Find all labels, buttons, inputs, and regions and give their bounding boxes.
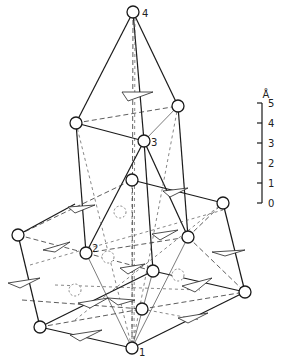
scale-tick-1: 1: [268, 178, 274, 189]
crystal-structure-diagram: 4 3 2 1 Å 5 4 3 2 1 0: [0, 0, 281, 361]
scale-tick-5: 5: [268, 98, 274, 109]
label-atom-3: 3: [151, 137, 157, 148]
label-atom-4: 4: [142, 8, 148, 19]
hidden-atom: [69, 284, 81, 296]
scale-tick-0: 0: [268, 198, 274, 209]
scale-bar: Å 5 4 3 2 1 0: [257, 88, 274, 209]
atom-4: [127, 6, 139, 18]
scale-tick-4: 4: [268, 118, 274, 129]
hidden-atom: [114, 206, 126, 218]
atom: [147, 265, 159, 277]
label-atom-1: 1: [139, 347, 145, 358]
scale-tick-3: 3: [268, 138, 274, 149]
atom-3: [138, 135, 150, 147]
atom: [136, 303, 148, 315]
cell-outline: [18, 180, 245, 348]
atom-2: [80, 247, 92, 259]
atom: [34, 321, 46, 333]
atom: [239, 286, 251, 298]
bond-wedges: [8, 92, 245, 341]
atom: [182, 231, 194, 243]
atom-1: [126, 342, 138, 354]
atom: [172, 100, 184, 112]
atom: [70, 117, 82, 129]
atom: [217, 197, 229, 209]
label-atom-2: 2: [92, 243, 98, 254]
atom: [12, 229, 24, 241]
hidden-atom: [172, 269, 184, 281]
scale-tick-2: 2: [268, 158, 274, 169]
internal-dashed-lines: [18, 180, 245, 327]
hidden-atom: [102, 251, 114, 263]
atom: [126, 174, 138, 186]
